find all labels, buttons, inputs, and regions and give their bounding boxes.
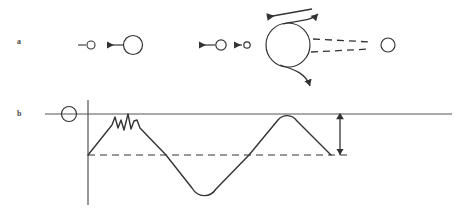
main-large-circle [266, 23, 310, 67]
large-particle-circle [124, 36, 143, 55]
top-left-arrow-icon [267, 9, 312, 17]
medium-particle-circle [216, 40, 226, 50]
panel-b-group [45, 100, 452, 205]
dashed-wake-upper [313, 39, 371, 42]
far-right-particle-circle [381, 38, 395, 52]
panel-a-group [78, 9, 395, 86]
figure-svg [0, 0, 457, 222]
small-particle-circle [87, 41, 95, 49]
figure-root: a b [0, 0, 457, 222]
small-particle-with-tail [78, 41, 95, 49]
lower-curved-flow-arrow-icon [280, 65, 310, 86]
tiny-particle-left-arrow [234, 42, 250, 48]
large-particle-left-arrow [107, 36, 143, 55]
dashed-wake-lower [311, 49, 370, 52]
tiny-particle-circle [244, 42, 250, 48]
upper-curved-flow-arrow-icon [283, 14, 318, 24]
medium-particle-left-arrow [199, 40, 226, 50]
